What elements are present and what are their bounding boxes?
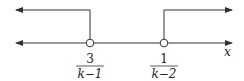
point-2-numerator: 1 xyxy=(160,52,168,66)
number-line-svg: x 3 k−1 1 k−2 xyxy=(0,0,244,81)
open-point-1 xyxy=(86,39,94,47)
right-region-line xyxy=(164,10,232,43)
left-region-line xyxy=(16,10,90,43)
point-1-numerator: 3 xyxy=(86,52,94,66)
axis-label: x xyxy=(224,45,231,59)
open-point-2 xyxy=(160,39,168,47)
point-2-denominator: k−2 xyxy=(152,67,177,81)
number-line-diagram: x 3 k−1 1 k−2 xyxy=(0,0,244,81)
point-1-denominator: k−1 xyxy=(78,67,103,81)
